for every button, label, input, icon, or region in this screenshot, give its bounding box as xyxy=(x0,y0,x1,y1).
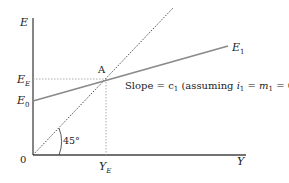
point-a-label: A xyxy=(97,64,106,75)
axis-y-label: E xyxy=(19,16,28,29)
axis-x-label: Y xyxy=(237,155,246,168)
origin-label: 0 xyxy=(20,154,26,165)
e0-label: E0 xyxy=(16,94,30,109)
e1-label: E1 xyxy=(231,41,245,56)
e1-expenditure-line xyxy=(33,46,228,101)
angle-arc xyxy=(59,128,62,155)
ye-label: YE xyxy=(99,160,111,175)
keynesian-cross-diagram: E Y 0 EE E0 E1 A YE 45° Slope = c1 (assu… xyxy=(0,0,289,183)
ee-label: EE xyxy=(16,73,30,88)
slope-annotation: Slope = c1 (assuming i1 = m1 = 0) xyxy=(125,80,289,93)
angle-label: 45° xyxy=(63,135,80,146)
